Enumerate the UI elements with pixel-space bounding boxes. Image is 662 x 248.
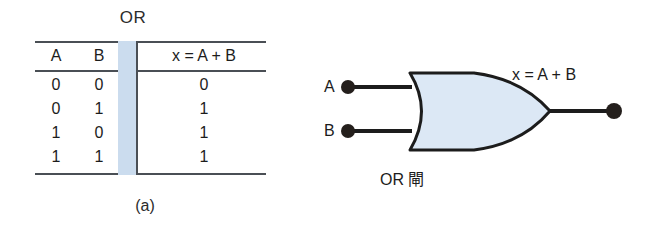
- column-separator-line: [136, 41, 138, 175]
- or-gate-body: [410, 73, 550, 150]
- gate-name-label: OR 閘: [380, 166, 424, 190]
- panel-truth-table: OR A B x = A + B 0 0 0 0 1 1 1 0 1 1 1 1…: [0, 0, 300, 248]
- table-cell-b: 1: [85, 148, 113, 166]
- table-cell-x: 1: [148, 148, 260, 166]
- input-label-a: A: [324, 78, 335, 96]
- page-title: OR: [0, 8, 266, 28]
- table-rule-header: [35, 70, 266, 72]
- column-separator-band: [118, 41, 136, 175]
- table-cell-b: 1: [85, 100, 113, 118]
- table-header-a: A: [42, 47, 70, 65]
- table-cell-x: 1: [148, 124, 260, 142]
- panel-gate-symbol: A B x = A + B OR 閘 (b): [300, 0, 662, 248]
- or-gate-diagram: [300, 0, 662, 248]
- table-header-b: B: [85, 47, 113, 65]
- table-header-output: x = A + B: [148, 47, 260, 65]
- table-cell-a: 1: [42, 124, 70, 142]
- input-terminal-b: [341, 124, 355, 138]
- table-rule-bottom: [35, 173, 266, 175]
- table-cell-b: 0: [85, 76, 113, 94]
- output-terminal: [606, 103, 622, 119]
- caption-panel-a: (a): [110, 197, 180, 215]
- table-cell-x: 0: [148, 76, 260, 94]
- table-cell-b: 0: [85, 124, 113, 142]
- table-cell-x: 1: [148, 100, 260, 118]
- table-cell-a: 0: [42, 76, 70, 94]
- table-cell-a: 0: [42, 100, 70, 118]
- table-rule-top: [35, 41, 266, 43]
- input-terminal-a: [341, 80, 355, 94]
- output-expression-label: x = A + B: [512, 66, 576, 84]
- input-label-b: B: [324, 122, 335, 140]
- table-cell-a: 1: [42, 148, 70, 166]
